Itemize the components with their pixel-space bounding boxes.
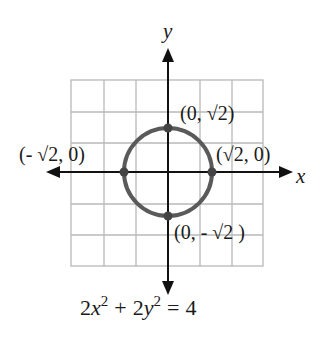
y-axis-up-arrow-icon <box>162 48 174 62</box>
label-top-point: (0, √2) <box>180 102 234 125</box>
point-bottom <box>164 212 173 221</box>
x-axis-left-arrow-icon <box>46 166 60 178</box>
point-left <box>120 168 129 177</box>
x-axis-label: x <box>295 164 306 188</box>
point-right <box>208 168 217 177</box>
equation: 2x2+2y2=4 <box>80 293 196 320</box>
y-axis-label: y <box>161 19 173 43</box>
y-axis-down-arrow-icon <box>162 281 174 295</box>
circle-graph: y x (0, √2) (- √2, 0) (√2, 0) (0, - √2 )… <box>0 0 325 341</box>
label-left-point: (- √2, 0) <box>19 143 85 166</box>
x-axis-right-arrow-icon <box>279 166 293 178</box>
point-top <box>164 124 173 133</box>
label-right-point: (√2, 0) <box>216 143 270 166</box>
label-bottom-point: (0, - √2 ) <box>174 221 245 244</box>
